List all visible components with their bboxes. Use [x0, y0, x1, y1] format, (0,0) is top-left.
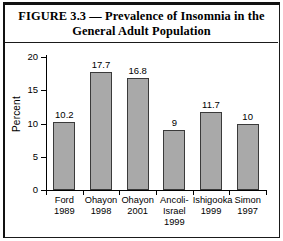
- x-axis-tick-label: Ohayon 1998: [83, 195, 120, 217]
- x-axis-tick-label: Ford 1989: [46, 195, 83, 217]
- figure-container: FIGURE 3.3 — Prevalence of Insomnia in t…: [0, 0, 283, 241]
- plot-area: Percent 05101520 10.217.716.8911.710 For…: [5, 44, 278, 236]
- bar: [200, 112, 222, 190]
- bar-value-label: 10.2: [44, 110, 84, 120]
- bar-value-label: 11.7: [191, 100, 231, 110]
- y-axis-tick: [41, 124, 46, 125]
- bar-value-label: 17.7: [81, 60, 121, 70]
- x-axis-tick-label: Ohayon 2001: [119, 195, 156, 217]
- figure-title: FIGURE 3.3 — Prevalence of Insomnia in t…: [5, 9, 278, 39]
- bar: [53, 122, 75, 190]
- y-axis-tick: [41, 57, 46, 58]
- y-axis-tick-label: 10: [5, 119, 38, 128]
- bar: [127, 78, 149, 190]
- x-axis-tick-label: Simon 1997: [229, 195, 266, 217]
- x-axis-tick: [266, 190, 267, 195]
- bar-value-label: 9: [154, 118, 194, 128]
- bar: [237, 124, 259, 191]
- x-axis-tick-label: Ancoli- Israel 1999: [156, 195, 193, 228]
- y-axis-tick-label: 20: [5, 52, 38, 61]
- bar: [163, 130, 185, 190]
- bar-value-label: 16.8: [118, 66, 158, 76]
- y-axis-tick-label: 15: [5, 85, 38, 94]
- y-axis-tick-label: 0: [5, 185, 38, 194]
- y-axis-tick: [41, 90, 46, 91]
- y-axis-tick: [41, 157, 46, 158]
- figure-title-box: FIGURE 3.3 — Prevalence of Insomnia in t…: [5, 5, 278, 43]
- x-axis-tick-label: Ishigooka 1999: [193, 195, 230, 217]
- bar: [90, 72, 112, 190]
- y-axis-line: [46, 55, 47, 192]
- bar-value-label: 10: [228, 112, 268, 122]
- y-axis-tick-label: 5: [5, 152, 38, 161]
